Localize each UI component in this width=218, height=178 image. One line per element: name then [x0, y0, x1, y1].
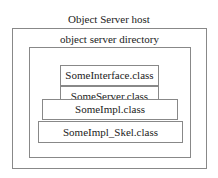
file-someimpl: SomeImpl.class: [42, 99, 178, 120]
file-someimpl-skel: SomeImpl_Skel.class: [38, 121, 183, 143]
host-label: Object Server host: [0, 13, 218, 25]
file-someinterface: SomeInterface.class: [60, 65, 159, 86]
directory-label: object server directory: [12, 33, 207, 45]
